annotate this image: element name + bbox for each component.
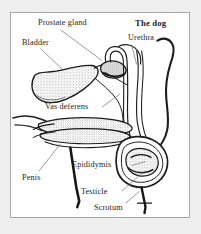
prostate-gland-group <box>101 61 127 78</box>
leader-bladder <box>41 49 63 70</box>
label-epididymis: Epididymis <box>72 161 111 169</box>
label-testicle: Testicle <box>81 188 108 196</box>
label-prostate-gland: Prostate gland <box>38 19 87 27</box>
scrotum-pointer-stem <box>142 187 146 213</box>
label-vas-deferens: Vas deferens <box>45 103 88 111</box>
label-penis: Penis <box>22 174 41 182</box>
penis-shaft-pointer <box>70 148 79 207</box>
bladder-group <box>32 65 105 103</box>
leader-scrotum <box>126 191 140 203</box>
rear-body-outline <box>153 39 173 154</box>
label-scrotum: Scrotum <box>94 204 123 212</box>
vas-deferens-group <box>95 45 141 126</box>
leader-prostate-gland <box>60 30 102 61</box>
anatomy-figure-panel: The dog Prostate gland Urethra Bladder V… <box>10 12 190 218</box>
label-bladder: Bladder <box>22 39 49 47</box>
label-urethra: Urethra <box>128 34 154 42</box>
figure-title: The dog <box>135 19 166 28</box>
leader-penis <box>39 144 61 172</box>
penis-lower-body <box>40 129 130 144</box>
